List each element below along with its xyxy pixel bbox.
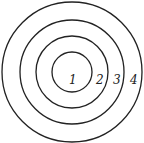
ring-label-3: 3 (113, 73, 121, 87)
concentric-circles-diagram: 1 2 3 4 (0, 0, 144, 143)
ring-4 (2, 2, 142, 142)
ring-label-1: 1 (69, 73, 77, 87)
ring-label-4: 4 (129, 73, 138, 87)
ring-label-2: 2 (95, 73, 104, 87)
ring-2 (36, 36, 108, 108)
